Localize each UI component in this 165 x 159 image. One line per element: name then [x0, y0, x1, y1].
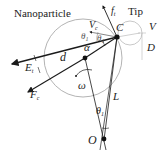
c-point [114, 34, 119, 39]
tip-label: Tip [128, 6, 143, 17]
vc-label: Vc [89, 20, 98, 31]
omega-arrow-arc [76, 69, 92, 76]
theta1-label-b: θ1 [97, 34, 104, 44]
v-label: V [149, 21, 156, 32]
e-label: Et [25, 62, 33, 74]
ft-label: ft [111, 6, 115, 17]
nanoparticle-label: Nanoparticle [14, 8, 71, 19]
o-label: O [88, 134, 97, 146]
theta1-label-c: θ1 [96, 106, 104, 117]
c-label: C [116, 22, 123, 33]
omega-label: ω [78, 80, 86, 91]
d-dimension-label: D [147, 42, 155, 53]
o-point [102, 137, 107, 142]
fc-label: Fc [30, 89, 39, 101]
alpha-label: α [84, 42, 90, 53]
v-direction-line [117, 33, 140, 37]
center-point [83, 56, 88, 61]
d-distance-label: d [60, 51, 66, 63]
pendulum-line-left [104, 37, 117, 140]
l-label: L [113, 91, 119, 102]
